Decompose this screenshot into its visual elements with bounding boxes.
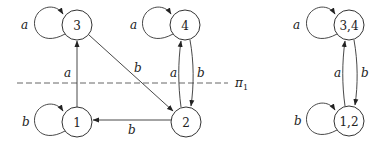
edge-label-4-4: a — [130, 18, 137, 32]
edge-12-34 — [343, 41, 345, 106]
state-label-1: 1 — [73, 116, 81, 130]
state-2: 2 — [171, 107, 201, 137]
edge-1-1 — [34, 104, 65, 135]
edge-label-2-1: b — [128, 123, 136, 137]
edge-label-34-34: a — [293, 18, 300, 32]
state-4: 4 — [170, 10, 200, 40]
edge-2-4 — [179, 41, 181, 107]
edge-3-3 — [34, 7, 65, 38]
edge-label-2-4: a — [170, 66, 177, 80]
edge-label-1-3: a — [64, 66, 71, 80]
edge-4-2 — [190, 40, 193, 106]
edge-label-3-3: a — [21, 18, 28, 32]
edge-label-12-12: b — [294, 114, 302, 128]
edge-label-34-12: b — [361, 66, 369, 80]
edge-4-4 — [142, 7, 173, 38]
edge-label-3-2: b — [134, 61, 142, 75]
edge-label-12-34: a — [334, 66, 341, 80]
edge-label-1-1: b — [22, 115, 30, 129]
state-1: 1 — [62, 107, 92, 137]
state-3: 3 — [62, 10, 92, 40]
state-label-1-2: 1,2 — [339, 115, 358, 129]
state-label-3-4: 3,4 — [339, 19, 358, 33]
state-1-2: 1,2 — [334, 106, 364, 136]
partition-label: π1 — [234, 76, 248, 92]
edge-3-2 — [89, 35, 173, 111]
state-label-4: 4 — [181, 19, 189, 33]
state-3-4: 3,4 — [334, 10, 364, 40]
edge-34-34 — [306, 7, 337, 38]
edge-34-12 — [354, 40, 357, 105]
edge-12-12 — [306, 103, 337, 134]
state-label-2: 2 — [182, 116, 190, 130]
automaton-diagram: π1 a a b a b a b b 3 4 1 2 a b — [0, 0, 386, 145]
edge-label-4-2: b — [197, 66, 205, 80]
state-label-3: 3 — [73, 19, 81, 33]
